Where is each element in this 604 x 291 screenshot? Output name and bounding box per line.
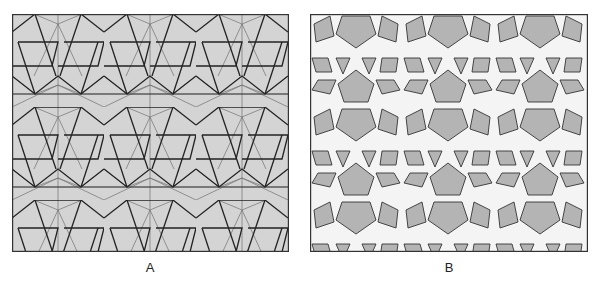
panel-b-svg: [310, 14, 588, 252]
panel-a-construction-pattern: [12, 14, 289, 252]
panel-a-label: A: [130, 260, 170, 275]
panel-a-frame: [13, 15, 289, 252]
panel-b-frame: [311, 15, 588, 252]
panel-b-label: B: [429, 260, 469, 275]
panel-a-svg: [12, 14, 289, 252]
panel-b-interlace-pattern: [310, 14, 588, 252]
